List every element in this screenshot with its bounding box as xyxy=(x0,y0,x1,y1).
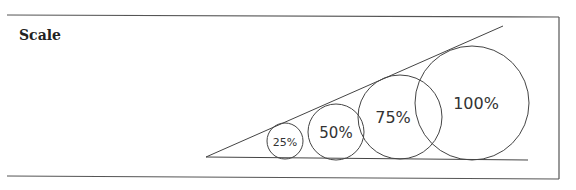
circle-label: 75% xyxy=(375,108,411,127)
wedge-slant-line xyxy=(206,26,503,157)
scale-diagram: 25% 50% 75% 100% xyxy=(0,0,576,190)
circle-50: 50% xyxy=(308,104,364,160)
circle-label: 25% xyxy=(273,136,297,149)
frame-top-line xyxy=(7,15,559,17)
frame-bottom-line xyxy=(7,176,559,179)
circle-label: 100% xyxy=(453,94,499,113)
circle-75: 75% xyxy=(358,75,442,159)
circle-100: 100% xyxy=(415,46,529,160)
circle-label: 50% xyxy=(319,124,352,142)
circle-25: 25% xyxy=(267,123,303,159)
